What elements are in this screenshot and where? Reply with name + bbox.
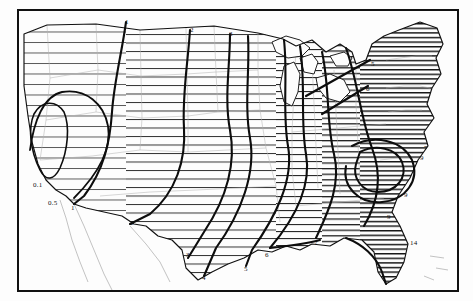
contour-label: 5 — [244, 266, 248, 273]
contour-label: 9 — [420, 155, 424, 162]
contour-label: 1 — [71, 205, 75, 212]
contour-label: 0.5 — [48, 200, 57, 207]
contour-label: 5 — [371, 61, 375, 68]
contour-label: 6 — [366, 86, 370, 93]
contour-map-figure: 0.1 0.5 1 1 2 2 3 3 4 5 5 6 6 7 7 9 9 9 … — [0, 0, 473, 301]
contour-label: 2 — [130, 220, 134, 227]
contour-label: 14 — [410, 240, 417, 247]
contour-label: 3 — [229, 31, 233, 38]
contour-label: 9 — [387, 214, 391, 221]
contour-label: 9 — [404, 192, 408, 199]
contour-label: 6 — [265, 252, 269, 259]
contour-label: 7 — [314, 240, 318, 247]
contour-label: 1 — [125, 19, 129, 26]
contour-label: 3 — [186, 252, 190, 259]
contour-label: 2 — [190, 27, 194, 34]
contour-label: 0.1 — [33, 182, 42, 189]
contour-label: 4 — [202, 275, 206, 282]
map-canvas — [0, 0, 473, 301]
contour-label: 7 — [424, 145, 428, 152]
